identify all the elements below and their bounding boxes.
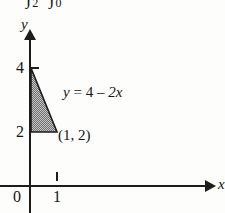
point-coordinate-label: (1, 2) bbox=[58, 127, 91, 144]
equation-equals: = bbox=[73, 84, 81, 100]
equation-constant: 4 bbox=[86, 84, 94, 100]
equation-lhs: y bbox=[63, 84, 70, 100]
x-axis-line bbox=[0, 185, 209, 187]
shaded-triangle-region bbox=[31, 68, 58, 133]
line-equation-label: y = 4 – 2x bbox=[63, 84, 122, 101]
y-axis-label: y bbox=[21, 16, 28, 33]
integral-first-lower-limit: 2 bbox=[32, 0, 38, 10]
x-axis-label: x bbox=[218, 176, 225, 193]
equation-minus: – bbox=[97, 84, 105, 100]
clipped-integral-expression: ∫2∫0 bbox=[26, 0, 61, 9]
x-axis-arrow-icon bbox=[205, 180, 216, 192]
figure-canvas: ∫2∫0 y x 4 2 0 1 y = 4 – 2x bbox=[0, 0, 225, 213]
x-tick-label-1: 1 bbox=[50, 188, 64, 206]
x-tick-mark-1 bbox=[56, 172, 58, 181]
y-tick-label-2: 2 bbox=[13, 123, 27, 141]
origin-label: 0 bbox=[10, 188, 24, 206]
y-tick-label-4: 4 bbox=[13, 59, 27, 77]
equation-term: 2x bbox=[108, 84, 122, 100]
integral-second-lower-limit: 0 bbox=[55, 0, 61, 10]
